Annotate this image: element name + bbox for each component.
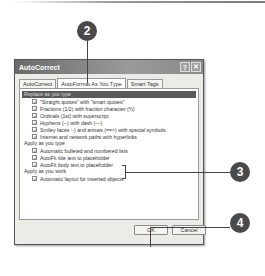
checkbox[interactable]: ✓ xyxy=(32,120,37,125)
callout-3-number: 3 xyxy=(237,165,244,179)
close-button[interactable]: ✕ xyxy=(191,62,201,72)
option-autofit-title[interactable]: ✓ AutoFit title text to placeholder xyxy=(20,154,198,161)
page-divider xyxy=(12,1,265,3)
option-bulleted-lists[interactable]: ✓ Automatic bulleted and numbered lists xyxy=(20,147,198,154)
callout-4: 4 xyxy=(230,213,250,233)
dialog-title: AutoCorrect xyxy=(19,64,60,71)
option-hyperlinks[interactable]: ✓ Internet and network paths with hyperl… xyxy=(20,133,198,140)
tab-smart-tags[interactable]: Smart Tags xyxy=(127,79,163,88)
option-label: AutoFit title text to placeholder xyxy=(40,155,110,161)
close-icon: ✕ xyxy=(193,63,199,71)
option-fractions[interactable]: ✓ Fractions (1/2) with fraction characte… xyxy=(20,105,198,112)
tab-strip: AutoCorrect AutoFormat As You Type Smart… xyxy=(19,78,164,88)
help-button[interactable]: ? xyxy=(180,62,190,72)
tab-autocorrect[interactable]: AutoCorrect xyxy=(19,79,56,88)
option-hyphens[interactable]: ✓ Hyphens (--) with dash (—) xyxy=(20,119,198,126)
checkbox[interactable]: ✓ xyxy=(32,134,37,139)
callout-4-leader-v xyxy=(150,227,151,247)
callout-2: 2 xyxy=(77,21,97,41)
checkbox[interactable]: ✓ xyxy=(32,113,37,118)
option-label: Smiley faces :-) and arrows (==>) with s… xyxy=(40,127,166,133)
autofit-options-bracket xyxy=(122,165,126,179)
callout-4-leader-h xyxy=(150,227,230,228)
callout-2-number: 2 xyxy=(84,24,91,38)
option-label: Internet and network paths with hyperlin… xyxy=(40,134,137,140)
callout-3: 3 xyxy=(230,162,250,182)
option-automatic-layout[interactable]: ✓ Automatic layout for inserted objects xyxy=(20,175,198,182)
checkbox[interactable]: ✓ xyxy=(32,155,37,160)
option-smiley-faces[interactable]: ✓ Smiley faces :-) and arrows (==>) with… xyxy=(20,126,198,133)
callout-4-number: 4 xyxy=(237,216,244,230)
title-bar: AutoCorrect ? ✕ xyxy=(15,60,203,74)
help-icon: ? xyxy=(183,64,187,71)
checkbox[interactable]: ✓ xyxy=(32,176,37,181)
option-smart-quotes[interactable]: ✓ "Straight quotes" with "smart quotes" xyxy=(20,98,198,105)
checkbox[interactable]: ✓ xyxy=(32,106,37,111)
callout-2-leader xyxy=(87,41,88,83)
option-label: Ordinals (1st) with superscript xyxy=(40,113,109,119)
autocorrect-dialog: AutoCorrect ? ✕ AutoCorrect AutoFormat A… xyxy=(14,59,204,245)
replace-as-you-type-header: Replace as you type xyxy=(22,91,196,98)
option-label: Hyphens (--) with dash (—) xyxy=(40,120,102,126)
option-label: AutoFit body text to placeholder xyxy=(40,162,113,168)
option-autofit-body[interactable]: ✓ AutoFit body text to placeholder xyxy=(20,161,198,168)
option-ordinals[interactable]: ✓ Ordinals (1st) with superscript xyxy=(20,112,198,119)
checkbox[interactable]: ✓ xyxy=(32,99,37,104)
checkbox[interactable]: ✓ xyxy=(32,127,37,132)
options-panel: Replace as you type ✓ "Straight quotes" … xyxy=(19,88,199,220)
option-label: Automatic bulleted and numbered lists xyxy=(40,148,128,154)
apply-as-you-type-label: Apply as you type xyxy=(20,140,198,147)
option-label: Automatic layout for inserted objects xyxy=(40,176,124,182)
callout-3-leader xyxy=(125,172,230,173)
checkbox[interactable]: ✓ xyxy=(32,162,37,167)
checkbox[interactable]: ✓ xyxy=(32,148,37,153)
option-label: "Straight quotes" with "smart quotes" xyxy=(40,99,124,105)
option-label: Fractions (1/2) with fraction character … xyxy=(40,106,135,112)
